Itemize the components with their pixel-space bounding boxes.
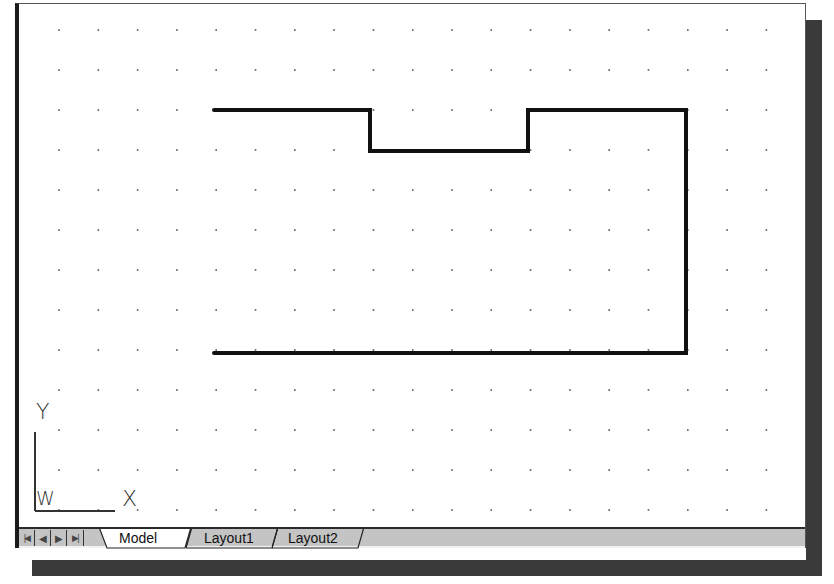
window-shadow-right: [806, 20, 822, 576]
window-shadow-bottom: [32, 560, 822, 576]
tab-layout2[interactable]: Layout2: [272, 529, 368, 548]
ucs-x-label: X: [122, 488, 137, 510]
drawing-area[interactable]: [19, 4, 805, 527]
drawing-window: Y X W |◀ ◀ ▶ ▶| Model Layout: [15, 3, 806, 548]
drawing-canvas[interactable]: Y X W: [19, 4, 805, 527]
next-tab-button[interactable]: ▶: [51, 530, 67, 546]
grid-dots: [58, 29, 767, 511]
first-tab-button[interactable]: |◀: [19, 530, 35, 546]
tab-layout2-label: Layout2: [288, 529, 338, 548]
last-tab-button[interactable]: ▶|: [67, 530, 84, 546]
drawn-polyline[interactable]: [214, 110, 686, 353]
tab-model[interactable]: Model: [99, 529, 195, 548]
tab-model-label: Model: [119, 529, 157, 548]
next-tab-icon: ▶: [55, 533, 63, 544]
ucs-w-label: W: [36, 489, 55, 508]
last-tab-icon: ▶|: [72, 533, 77, 543]
tab-layout1[interactable]: Layout1: [186, 529, 282, 548]
previous-tab-icon: ◀: [39, 533, 47, 544]
layout-tab-bar: |◀ ◀ ▶ ▶| Model Layout1: [19, 527, 805, 548]
ucs-y-label: Y: [36, 401, 49, 423]
first-tab-icon: |◀: [24, 533, 29, 543]
previous-tab-button[interactable]: ◀: [35, 530, 51, 546]
tab-layout1-label: Layout1: [204, 529, 254, 548]
